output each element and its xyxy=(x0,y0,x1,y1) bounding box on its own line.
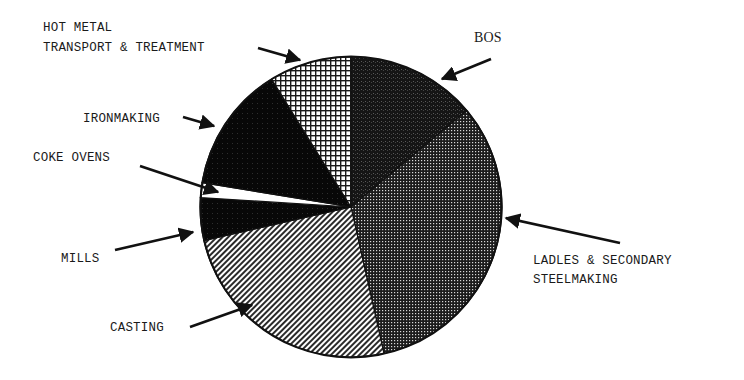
label-mills: MILLS xyxy=(61,251,100,267)
arrow-mills xyxy=(115,232,193,250)
pie-slices xyxy=(200,57,502,357)
label-ladles-line1: LADLES & SECONDARY xyxy=(533,253,672,269)
label-hot-metal-line1: HOT METAL xyxy=(43,20,112,36)
label-casting: CASTING xyxy=(110,320,164,336)
label-ladles-line2: STEELMAKING xyxy=(533,272,618,288)
label-coke-ovens: COKE OVENS xyxy=(33,150,110,166)
label-bos: BOS xyxy=(474,30,502,46)
label-hot-metal-line2: TRANSPORT & TREATMENT xyxy=(43,40,205,56)
arrow-bos xyxy=(442,59,491,79)
arrow-hot-metal xyxy=(258,48,300,60)
arrow-ladles xyxy=(506,218,620,243)
label-ironmaking: IRONMAKING xyxy=(83,111,160,127)
arrow-casting xyxy=(190,305,252,327)
arrow-ironmaking xyxy=(183,117,214,126)
